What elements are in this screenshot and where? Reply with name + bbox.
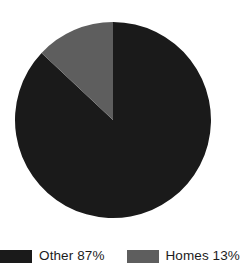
legend-swatch-other-icon: [0, 250, 32, 263]
pie-chart-figure: Other 87% Homes 13%: [0, 0, 240, 275]
pie-svg: [0, 0, 240, 232]
legend-item-other[interactable]: Other 87%: [0, 249, 104, 263]
chart-legend: Other 87% Homes 13%: [0, 243, 240, 269]
legend-swatch-homes-icon: [127, 250, 159, 263]
legend-label-other: Other 87%: [39, 249, 104, 263]
pie-plot-area: [0, 0, 240, 232]
legend-item-homes[interactable]: Homes 13%: [127, 249, 240, 263]
legend-label-homes: Homes 13%: [166, 249, 240, 263]
